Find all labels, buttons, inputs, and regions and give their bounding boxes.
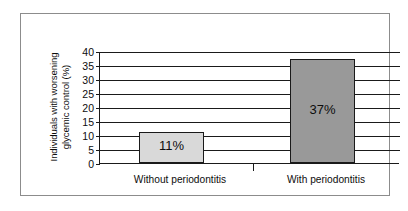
plot-area: 4035302520151050 11% 37%	[99, 52, 399, 164]
y-tick-label: 0	[88, 159, 94, 170]
bar-with-periodontitis[interactable]: 37%	[290, 59, 355, 163]
y-tick-mark	[96, 150, 100, 151]
y-tick-label: 25	[82, 89, 94, 100]
y-tick-mark	[96, 136, 100, 137]
y-tick-mark	[96, 52, 100, 53]
y-axis-title: Individuals with worsening glycemic cont…	[47, 44, 73, 170]
gridline	[100, 94, 400, 95]
category-label-with-periodontitis: With periodontitis	[253, 174, 399, 185]
bar-value-with-periodontitis: 37%	[309, 103, 335, 116]
y-tick-label: 30	[82, 75, 94, 86]
bar-without-periodontitis[interactable]: 11%	[139, 132, 204, 163]
gridline	[100, 108, 400, 109]
gridline	[100, 122, 400, 123]
y-tick-label: 20	[82, 103, 94, 114]
bar-value-without-periodontitis: 11%	[159, 139, 184, 152]
y-tick-mark	[96, 66, 100, 67]
y-tick-label: 5	[88, 145, 94, 156]
y-tick-mark	[96, 108, 100, 109]
y-tick-mark	[96, 80, 100, 81]
y-tick-label: 10	[82, 131, 94, 142]
gridline	[100, 80, 400, 81]
chart-frame: Individuals with worsening glycemic cont…	[20, 13, 390, 196]
y-tick-label: 35	[82, 61, 94, 72]
gridline	[100, 52, 400, 53]
y-tick-label: 40	[82, 47, 94, 58]
y-axis-title-line-1: Individuals with worsening	[48, 53, 61, 162]
category-label-without-periodontitis: Without periodontitis	[107, 174, 253, 185]
y-tick-mark	[96, 164, 100, 165]
y-axis-title-line-2: glycemic control (%)	[60, 65, 73, 149]
y-tick-label: 15	[82, 117, 94, 128]
y-tick-mark	[96, 122, 100, 123]
y-tick-mark	[96, 94, 100, 95]
category-axis-tick	[253, 164, 254, 171]
gridline	[100, 66, 400, 67]
